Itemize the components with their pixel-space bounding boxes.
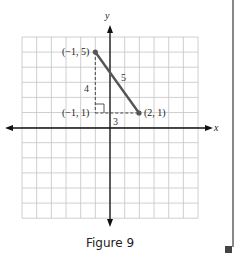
- x-axis: [5, 125, 213, 131]
- coordinate-plane-figure: x y (−1, 5) (−1, 1) (2, 1) 5 4 3: [0, 0, 237, 258]
- y-axis-down-arrow-icon: [107, 219, 113, 227]
- hypotenuse-length-label: 5: [121, 72, 126, 83]
- y-axis-up-arrow-icon: [107, 25, 113, 33]
- page-margin-bar: [232, 0, 234, 247]
- point-b-label: (−1, 1): [62, 107, 89, 119]
- horizontal-leg-length-label: 3: [113, 116, 118, 127]
- point-a-label: (−1, 5): [62, 46, 89, 58]
- x-axis-right-arrow-icon: [205, 125, 213, 131]
- right-angle-marker: [95, 104, 104, 113]
- point-a: [93, 49, 98, 54]
- end-of-section-square-icon: [225, 246, 232, 253]
- point-c-label: (2, 1): [144, 107, 166, 119]
- y-axis-label: y: [104, 10, 110, 21]
- vertical-leg-length-label: 4: [84, 83, 89, 94]
- x-axis-label: x: [213, 122, 219, 133]
- point-c: [136, 110, 141, 115]
- figure-caption: Figure 9: [0, 236, 220, 250]
- x-axis-left-arrow-icon: [5, 125, 13, 131]
